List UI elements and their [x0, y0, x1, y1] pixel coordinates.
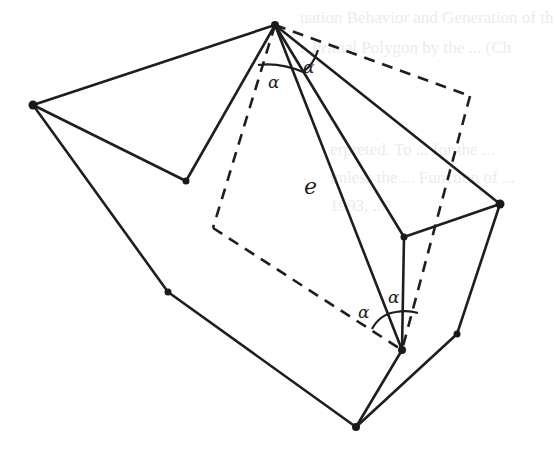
edge-bottom-lowerright [356, 334, 457, 427]
label-alpha-bottom-left: α [358, 302, 370, 322]
vertex-right [496, 200, 505, 209]
label-alpha-top-right: α [303, 57, 315, 77]
solid-edges [33, 25, 500, 427]
edge-left-lowerleft [33, 105, 168, 292]
vertex-lower-right [454, 331, 461, 338]
edge-apex-innerright [275, 25, 404, 237]
edge-bottom-pivot [356, 350, 402, 427]
label-alpha-bottom-right: α [388, 287, 400, 307]
edge-e-apex-pivot [275, 25, 402, 350]
edge-innerleft-apex [186, 25, 275, 181]
edge-lowerleft-bottom [168, 292, 356, 427]
angle-arc-bottom-right [396, 311, 418, 313]
vertex-bottom [352, 423, 360, 431]
dashed-edge-apex-leftcorner [213, 25, 275, 228]
label-edge-e: e [304, 174, 317, 199]
vertex-apex [271, 21, 279, 29]
edge-apex-left [33, 25, 275, 105]
edge-lowerright-right [457, 204, 500, 334]
angle-arc-top-left [258, 64, 303, 72]
vertex-pivot [398, 346, 406, 354]
dashed-edge-leftcorner-pivot [213, 228, 402, 350]
label-alpha-top-left: α [268, 72, 280, 92]
vertex-inner-left [183, 178, 190, 185]
vertex-inner-right [401, 234, 408, 241]
edge-right-innerright [404, 204, 500, 237]
edge-left-innerleft [33, 105, 186, 181]
dashed-edges [213, 25, 470, 350]
vertex-left [29, 101, 38, 110]
vertex-lower-left [165, 289, 172, 296]
edge-innerright-pivot [402, 237, 404, 350]
